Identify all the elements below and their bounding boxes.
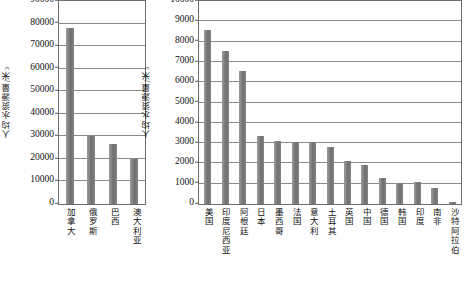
y-tick-label: 10000 <box>170 0 194 5</box>
x-tick-label: 土耳其 <box>321 206 339 292</box>
bar-slot <box>391 1 408 204</box>
bar <box>239 71 246 204</box>
x-tick-label: 中国 <box>356 206 374 292</box>
x-tick-label: 巴西 <box>102 206 124 292</box>
x-tick-label: 加拿大 <box>58 206 80 292</box>
bar <box>257 136 264 204</box>
bar <box>309 142 316 204</box>
bar-slot <box>409 1 426 204</box>
right-chart-x-labels: 美国印度尼西亚阿根廷日本墨西哥法国意大利土耳其英国中国德国韩国印度南非沙特阿拉伯 <box>198 206 462 292</box>
x-tick-label-text: 美国 <box>202 206 212 227</box>
x-tick-label: 俄罗斯 <box>80 206 102 292</box>
bar <box>109 144 117 204</box>
bar <box>204 30 211 204</box>
bar-slot <box>216 1 233 204</box>
bar-slot <box>444 1 461 204</box>
y-tick-label: 10000 <box>30 176 54 186</box>
bar-slot <box>102 1 124 204</box>
left-y-axis-label-text: 人均水资源量/米 <box>3 70 12 138</box>
y-tick-label: 3000 <box>175 137 194 147</box>
x-tick-label: 德国 <box>374 206 392 292</box>
right-chart-y-ticks: 0100020003000400050006000700080009000100… <box>152 0 196 205</box>
x-tick-label-text: 法国 <box>290 206 300 227</box>
bar-slot <box>374 1 391 204</box>
chart-page: 人均水资源量/米3 010000200003000040000500006000… <box>0 0 468 292</box>
bar <box>344 161 351 204</box>
bar <box>379 178 386 204</box>
bar-slot <box>321 1 338 204</box>
left-chart-x-labels: 加拿大俄罗斯巴西澳大利亚 <box>58 206 146 292</box>
y-tick-label: 0 <box>49 198 54 208</box>
x-tick-label-text: 俄罗斯 <box>86 206 96 236</box>
bar <box>66 28 74 204</box>
right-chart-plot-area <box>198 0 462 205</box>
y-tick-label: 5000 <box>175 97 194 107</box>
x-tick-label: 墨西哥 <box>268 206 286 292</box>
x-tick-label: 阿根廷 <box>233 206 251 292</box>
x-tick-label-text: 印度 <box>413 206 423 227</box>
right-y-axis-label-text: 人均水资源量/米 <box>143 70 152 138</box>
x-tick-label-text: 日本 <box>255 206 265 227</box>
x-tick-label: 日本 <box>251 206 269 292</box>
bar-slot <box>356 1 373 204</box>
x-tick-label-text: 澳大利亚 <box>130 206 140 246</box>
bar-slot <box>251 1 268 204</box>
bar-slot <box>59 1 81 204</box>
bar <box>361 165 368 204</box>
x-tick-label: 印度尼西亚 <box>216 206 234 292</box>
bar <box>414 182 421 204</box>
right-y-axis-label-superscript: 3 <box>143 67 152 70</box>
bar-slot <box>81 1 103 204</box>
x-tick-label-text: 巴西 <box>108 206 118 227</box>
x-tick-label: 韩国 <box>392 206 410 292</box>
bar <box>449 202 456 204</box>
bar-slot <box>426 1 443 204</box>
y-tick-label: 90000 <box>30 0 54 5</box>
bar <box>292 142 299 204</box>
y-tick-label: 9000 <box>175 16 194 26</box>
y-tick-label: 4000 <box>175 117 194 127</box>
x-tick-label: 南非 <box>427 206 445 292</box>
x-tick-label: 意大利 <box>304 206 322 292</box>
x-tick-label: 英国 <box>339 206 357 292</box>
bar-slot <box>269 1 286 204</box>
y-tick-label: 6000 <box>175 76 194 86</box>
y-tick-label: 1000 <box>175 178 194 188</box>
y-tick-label: 2000 <box>175 158 194 168</box>
y-tick-label: 70000 <box>30 40 54 50</box>
bar-slot <box>304 1 321 204</box>
x-tick-label-text: 阿根廷 <box>237 206 247 236</box>
bar-slot <box>286 1 303 204</box>
bar <box>431 188 438 204</box>
x-tick-label: 澳大利亚 <box>124 206 146 292</box>
bar <box>222 51 229 204</box>
bar <box>130 159 138 204</box>
x-tick-label-text: 中国 <box>360 206 370 227</box>
x-tick-label-text: 韩国 <box>396 206 406 227</box>
x-tick-label-text: 意大利 <box>308 206 318 236</box>
y-tick-label: 7000 <box>175 56 194 66</box>
x-tick-label-text: 沙特阿拉伯 <box>448 206 458 255</box>
y-tick-label: 8000 <box>175 36 194 46</box>
x-tick-label: 印度 <box>409 206 427 292</box>
x-tick-label-text: 印度尼西亚 <box>220 206 230 255</box>
bar <box>396 183 403 204</box>
bar-slot <box>234 1 251 204</box>
y-tick-label: 30000 <box>30 131 54 141</box>
bar-slot <box>339 1 356 204</box>
bar-slot <box>199 1 216 204</box>
left-y-axis-label-superscript: 3 <box>3 67 12 70</box>
x-tick-label-text: 土耳其 <box>325 206 335 236</box>
x-tick-label-text: 德国 <box>378 206 388 227</box>
y-tick-label: 40000 <box>30 108 54 118</box>
x-tick-label: 法国 <box>286 206 304 292</box>
y-tick-label: 60000 <box>30 63 54 73</box>
x-tick-label-text: 英国 <box>343 206 353 227</box>
left-chart-y-ticks: 0100002000030000400005000060000700008000… <box>12 0 56 205</box>
y-tick-label: 0 <box>189 198 194 208</box>
x-tick-label-text: 加拿大 <box>64 206 74 236</box>
y-tick-label: 50000 <box>30 85 54 95</box>
x-tick-label: 沙特阿拉伯 <box>444 206 462 292</box>
bar <box>327 147 334 204</box>
right-chart-bars <box>199 1 461 204</box>
